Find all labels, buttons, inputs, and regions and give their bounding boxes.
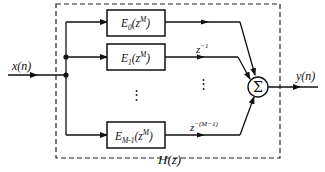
system-label: H(z) <box>157 152 181 167</box>
output-label: y(n) <box>295 69 315 83</box>
input-label: x(n) <box>11 59 31 73</box>
ellipsis-delays: ⋮ <box>197 76 210 91</box>
polyphase-diagram: Σ ⋮ ⋮ x(n) y(n) H(z) E0(zM) E1(zM) EM-1(… <box>0 0 325 172</box>
output-arrow-icon <box>293 84 301 90</box>
junction-dot <box>63 72 68 77</box>
sum-symbol: Σ <box>253 79 263 95</box>
ellipsis-filters: ⋮ <box>130 87 143 102</box>
delay-label-1: z−1 <box>195 42 209 55</box>
delay-label-m1: z−(M−1) <box>189 120 218 133</box>
